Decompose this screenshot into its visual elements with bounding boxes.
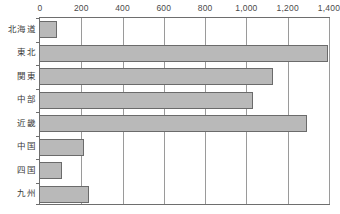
y-tick-mark bbox=[36, 112, 40, 113]
bar bbox=[40, 68, 273, 85]
x-tick-label: 200 bbox=[74, 3, 89, 13]
y-axis-category-labels: 北海道東北関東中部近畿中国四国九州 bbox=[0, 17, 39, 205]
x-tick-label: 0 bbox=[38, 3, 43, 13]
x-tick-label: 1,000 bbox=[235, 3, 257, 13]
gridline bbox=[329, 18, 330, 204]
y-category-label: 北海道 bbox=[8, 24, 36, 34]
bar bbox=[40, 45, 328, 62]
x-tick-label: 400 bbox=[115, 3, 130, 13]
y-category-label: 中部 bbox=[17, 94, 36, 104]
bar bbox=[40, 186, 89, 203]
bar-chart: 02004006008001,0001,2001,400 北海道東北関東中部近畿… bbox=[0, 0, 340, 214]
y-category-label: 中国 bbox=[17, 141, 36, 151]
bar bbox=[40, 139, 84, 156]
plot-area bbox=[39, 17, 330, 205]
y-tick-mark bbox=[36, 159, 40, 160]
x-tick-label: 800 bbox=[198, 3, 213, 13]
x-tick-label: 1,400 bbox=[318, 3, 340, 13]
y-tick-mark bbox=[36, 204, 40, 205]
y-category-label: 近畿 bbox=[17, 118, 36, 128]
y-category-label: 東北 bbox=[17, 47, 36, 57]
y-category-label: 四国 bbox=[17, 165, 36, 175]
y-category-label: 関東 bbox=[17, 71, 36, 81]
x-axis-tick-labels: 02004006008001,0001,2001,400 bbox=[0, 0, 340, 18]
y-tick-mark bbox=[36, 65, 40, 66]
bar bbox=[40, 162, 62, 179]
bar bbox=[40, 92, 253, 109]
x-tick-label: 600 bbox=[156, 3, 171, 13]
bar bbox=[40, 21, 57, 38]
y-tick-mark bbox=[36, 136, 40, 137]
x-tick-label: 1,200 bbox=[277, 3, 299, 13]
y-tick-mark bbox=[36, 42, 40, 43]
y-category-label: 九州 bbox=[17, 188, 36, 198]
bar bbox=[40, 115, 307, 132]
y-tick-mark bbox=[36, 183, 40, 184]
y-tick-mark bbox=[36, 89, 40, 90]
y-tick-mark bbox=[36, 18, 40, 19]
